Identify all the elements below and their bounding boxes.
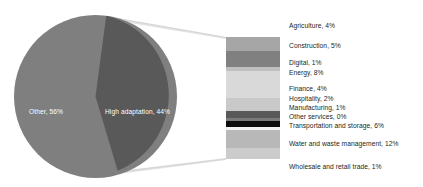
bar-segment-agriculture[interactable] — [226, 37, 280, 51]
callout-label-list: Agriculture, 4% Construction, 5% Digital… — [289, 0, 423, 187]
pie-label-other: Other, 56% — [29, 108, 63, 115]
bar-segment-water-and-waste-management[interactable] — [226, 130, 280, 148]
callout-label-hospitality: Hospitality, 2% — [289, 95, 333, 103]
bar-segment-construction[interactable] — [226, 51, 280, 68]
callout-label-energy: Energy, 8% — [289, 69, 324, 77]
chart-canvas: Other, 56% High adaptation, 44% Agricult… — [0, 0, 423, 187]
bar-segment-finance[interactable] — [226, 98, 280, 112]
bar-segment-hospitality[interactable] — [226, 111, 280, 118]
pie-chart: Other, 56% High adaptation, 44% — [13, 15, 178, 178]
callout-label-agriculture: Agriculture, 4% — [289, 22, 335, 30]
callout-label-transportation-and-storage: Transportation and storage, 6% — [289, 122, 384, 130]
callout-label-manufacturing: Manufacturing, 1% — [289, 104, 346, 112]
pie-svg — [13, 15, 178, 178]
bar-segment-wholesale-and-retail-trade[interactable] — [226, 148, 280, 159]
callout-label-construction: Construction, 5% — [289, 42, 341, 50]
callout-label-water-and-waste-management: Water and waste management, 12% — [289, 140, 398, 148]
bar-segment-energy[interactable] — [226, 71, 280, 98]
pie-label-high-adaptation: High adaptation, 44% — [105, 108, 170, 115]
callout-label-digital: Digital, 1% — [289, 59, 322, 67]
callout-label-wholesale-and-retail-trade: Wholesale and retail trade, 1% — [289, 163, 382, 171]
callout-label-other-services: Other services, 0% — [289, 113, 346, 121]
stacked-bar — [226, 37, 280, 159]
callout-label-finance: Finance, 4% — [289, 85, 327, 93]
